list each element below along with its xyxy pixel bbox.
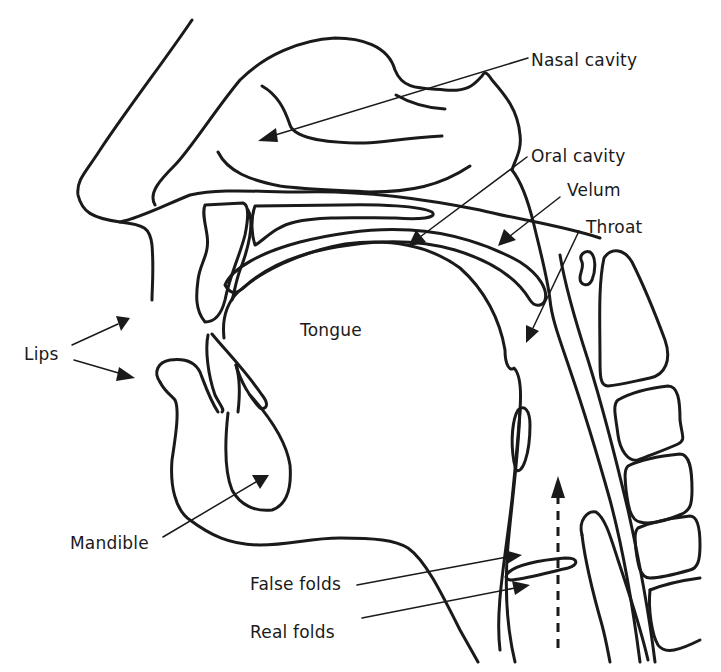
middle-turbinate bbox=[218, 152, 470, 192]
leader-false-folds bbox=[357, 550, 522, 585]
label-throat: Throat bbox=[586, 219, 642, 236]
hard-palate bbox=[252, 205, 433, 245]
upper-turbinate-tail bbox=[396, 95, 445, 109]
leader-nasal-cavity bbox=[258, 58, 528, 142]
pharynx-back-wall bbox=[512, 170, 640, 662]
leader-lips-lower bbox=[74, 360, 135, 381]
label-false-folds: False folds bbox=[250, 576, 341, 593]
label-real-folds: Real folds bbox=[250, 624, 335, 641]
chin-outline bbox=[160, 382, 478, 662]
vocal-fold bbox=[506, 558, 576, 580]
label-nasal-cavity: Nasal cavity bbox=[531, 52, 637, 69]
lower-incisor-outer bbox=[207, 335, 223, 412]
mandible-bone bbox=[226, 395, 291, 510]
label-velum: Velum bbox=[567, 182, 621, 199]
airflow-arrow bbox=[551, 476, 565, 648]
vertebra-c6-body bbox=[649, 590, 700, 650]
label-oral-cavity: Oral cavity bbox=[531, 148, 625, 165]
vertebra-dens bbox=[580, 252, 595, 285]
vertebra-c5 bbox=[635, 516, 700, 578]
nose-profile-outline bbox=[78, 20, 192, 300]
vertebra-c6 bbox=[650, 578, 700, 590]
nasal-cavity-outline bbox=[153, 38, 520, 205]
arytenoid-inner bbox=[582, 535, 610, 662]
label-lips: Lips bbox=[24, 346, 59, 363]
label-mandible: Mandible bbox=[70, 535, 149, 552]
vocal-tract-diagram: Nasal cavity Oral cavity Velum Throat To… bbox=[0, 0, 721, 672]
leader-throat bbox=[526, 231, 579, 343]
label-tongue: Tongue bbox=[300, 322, 362, 339]
vertebra-c3 bbox=[615, 386, 683, 460]
leader-lips-upper bbox=[72, 316, 130, 345]
vertebra-c2 bbox=[600, 251, 668, 386]
upper-lip-bone bbox=[197, 203, 248, 322]
tongue-tip-fold bbox=[236, 365, 239, 412]
upper-turbinate bbox=[262, 86, 442, 143]
vertebra-c4 bbox=[625, 454, 692, 523]
